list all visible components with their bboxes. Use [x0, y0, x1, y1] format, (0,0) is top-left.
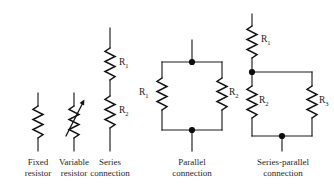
sp-resistor-2-label: R2 — [259, 96, 269, 107]
series-resistor-1-label: R1 — [119, 58, 129, 69]
caption-series-connection-line2: connection — [77, 168, 143, 179]
caption-parallel-connection: Parallel connection — [158, 157, 226, 179]
sp-resistor-2-body — [247, 86, 257, 118]
parallel-resistor-2-body — [217, 78, 227, 110]
fixed-resistor-symbol — [33, 93, 43, 151]
sp-resistor-1-body — [247, 26, 257, 58]
variable-resistor-symbol — [66, 93, 84, 151]
sp-bottom-junction-dot — [279, 133, 285, 139]
sp-resistor-3-body — [307, 86, 317, 118]
caption-parallel-connection-line1: Parallel — [158, 157, 226, 168]
parallel-bottom-junction-dot — [189, 127, 195, 133]
fixed-resistor-body — [33, 106, 43, 138]
caption-series-connection-line1: Series — [77, 157, 143, 168]
parallel-connection-circuit — [157, 40, 227, 151]
sp-resistor-1-label: R1 — [261, 35, 271, 46]
sp-resistor-3-label: R3 — [319, 96, 329, 107]
caption-series-connection: Series connection — [77, 157, 143, 179]
series-connection-circuit — [105, 28, 115, 151]
sp-top-junction-dot — [249, 69, 255, 75]
parallel-resistor-1-label: R1 — [139, 88, 149, 99]
caption-series-parallel-connection-line1: Series-parallel — [239, 157, 327, 168]
parallel-resistor-1-body — [157, 78, 167, 110]
parallel-resistor-2-label: R2 — [229, 88, 239, 99]
caption-series-parallel-connection: Series-parallel connection — [239, 157, 327, 179]
circuit-diagram: R1 R2 R1 R2 R1 R2 R3 Fixed resistor Vari… — [0, 0, 334, 194]
caption-parallel-connection-line2: connection — [158, 168, 226, 179]
series-parallel-connection-circuit — [247, 14, 317, 151]
caption-series-parallel-connection-line2: connection — [239, 168, 327, 179]
series-resistor-2-body — [105, 96, 115, 128]
variable-resistor-body — [69, 106, 79, 138]
series-resistor-2-label: R2 — [119, 106, 129, 117]
parallel-top-junction-dot — [189, 59, 195, 65]
series-resistor-1-body — [105, 48, 115, 80]
